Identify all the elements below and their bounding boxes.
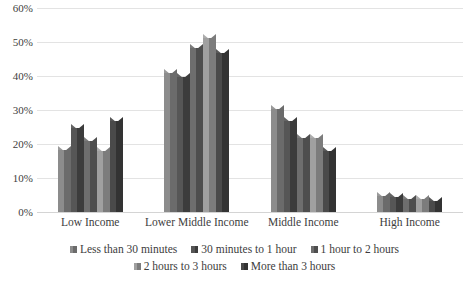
bar-slot [390, 8, 403, 212]
y-axis-labels: 0%10%20%30%40%50%60% [0, 8, 33, 212]
bar[interactable] [110, 117, 123, 212]
bar-slot [377, 8, 390, 212]
bar-face-right [396, 197, 403, 212]
bar[interactable] [284, 117, 297, 212]
bar-groups [37, 8, 463, 212]
legend-row-1: Less than 30 minutes30 minutes to 1 hour… [0, 241, 469, 258]
bar-face-right [303, 138, 310, 212]
bar-slot [84, 8, 97, 212]
bar-face-right [383, 196, 390, 212]
legend-item[interactable]: 1 hour to 2 hours [311, 243, 400, 256]
y-tick-label: 20% [0, 139, 33, 150]
legend-item[interactable]: 30 minutes to 1 hour [191, 243, 296, 256]
bar-face-right [209, 38, 216, 213]
bar-slot [323, 8, 336, 212]
bar[interactable] [216, 49, 229, 212]
legend-item[interactable]: More than 3 hours [241, 260, 336, 273]
bar-slot [271, 8, 284, 212]
bar[interactable] [297, 134, 310, 212]
plot-area [37, 8, 463, 212]
legend-row-2: 2 hours to 3 hoursMore than 3 hours [0, 258, 469, 275]
legend-swatch-icon [311, 246, 318, 253]
y-tick-label: 60% [0, 3, 33, 14]
bar-slot [297, 8, 310, 212]
chart-legend: Less than 30 minutes30 minutes to 1 hour… [0, 241, 469, 275]
bar-face-right [64, 150, 71, 212]
bar[interactable] [271, 105, 284, 212]
bar[interactable] [97, 147, 110, 212]
legend-label: 1 hour to 2 hours [321, 243, 400, 256]
bar-face-right [277, 109, 284, 212]
bar-slot [310, 8, 323, 212]
bar-slot [284, 8, 297, 212]
bar-slot [429, 8, 442, 212]
bar[interactable] [84, 137, 97, 212]
legend-label: 2 hours to 3 hours [144, 260, 227, 273]
bar[interactable] [71, 124, 84, 212]
bar[interactable] [323, 147, 336, 212]
legend-swatch-icon [70, 246, 77, 253]
bar-slot [177, 8, 190, 212]
y-tick-label: 10% [0, 173, 33, 184]
bar-face-right [170, 73, 177, 212]
y-tick-label: 40% [0, 71, 33, 82]
bar[interactable] [177, 73, 190, 212]
bar-face-right [435, 201, 442, 212]
bar-slot [403, 8, 416, 212]
bar-face-right [183, 77, 190, 212]
bar-face-right [103, 151, 110, 212]
bar-slot [164, 8, 177, 212]
bar[interactable] [377, 192, 390, 212]
bar-face-right [329, 151, 336, 212]
bar-face-right [90, 141, 97, 212]
bar[interactable] [310, 134, 323, 212]
legend-item[interactable]: 2 hours to 3 hours [134, 260, 227, 273]
x-axis-category-label: Lower Middle Income [144, 216, 251, 229]
bar[interactable] [203, 34, 216, 213]
legend-swatch-icon [241, 263, 248, 270]
legend-item[interactable]: Less than 30 minutes [70, 243, 177, 256]
bar[interactable] [190, 44, 203, 212]
bar-face-right [116, 121, 123, 212]
bar[interactable] [416, 195, 429, 212]
x-axis-category-label: Low Income [37, 216, 144, 229]
bar-slot [216, 8, 229, 212]
gridline-0 [37, 212, 463, 213]
bar-group [250, 8, 357, 212]
bar-face-right [290, 121, 297, 212]
y-tick-label: 30% [0, 105, 33, 116]
bar-face-right [222, 53, 229, 212]
bar-slot [58, 8, 71, 212]
legend-swatch-icon [191, 246, 198, 253]
bar-face-right [409, 199, 416, 212]
bar-group [357, 8, 464, 212]
legend-swatch-icon [134, 263, 141, 270]
bar-face-right [77, 128, 84, 212]
bar-slot [416, 8, 429, 212]
bar-slot [203, 8, 216, 212]
bar-face-right [422, 199, 429, 212]
bar[interactable] [390, 193, 403, 212]
bar[interactable] [164, 69, 177, 212]
x-axis-category-label: High Income [357, 216, 464, 229]
y-tick-label: 50% [0, 37, 33, 48]
x-axis-category-label: Middle Income [250, 216, 357, 229]
bar-face-right [316, 138, 323, 212]
chart-container: 0%10%20%30%40%50%60% Low IncomeLower Mid… [0, 0, 469, 281]
legend-label: 30 minutes to 1 hour [201, 243, 296, 256]
x-axis-labels: Low IncomeLower Middle IncomeMiddle Inco… [37, 216, 463, 229]
y-tick-label: 0% [0, 207, 33, 218]
bar-group [37, 8, 144, 212]
bar[interactable] [403, 195, 416, 212]
bar-slot [71, 8, 84, 212]
bar-slot [190, 8, 203, 212]
legend-label: Less than 30 minutes [80, 243, 177, 256]
legend-label: More than 3 hours [251, 260, 336, 273]
bar-group [144, 8, 251, 212]
bar[interactable] [58, 146, 71, 212]
bar-face-right [196, 48, 203, 212]
bar-slot [97, 8, 110, 212]
bar[interactable] [429, 197, 442, 212]
bar-slot [110, 8, 123, 212]
